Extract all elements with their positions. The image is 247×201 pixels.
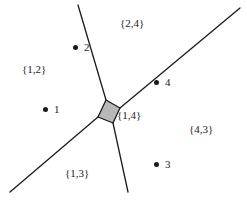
region-label-region-1-3: {1,3} (65, 168, 89, 179)
site-marker-3 (154, 162, 159, 167)
site-label-1: 1 (54, 104, 60, 115)
region-label-region-1-2: {1,2} (22, 64, 46, 75)
site-marker-4 (154, 80, 159, 85)
region-label-region-4-3: {4,3} (189, 124, 213, 135)
site-label-3: 3 (165, 159, 171, 170)
region-label-region-1-4: {1,4} (117, 110, 141, 121)
site-label-2: 2 (84, 42, 90, 53)
voronoi-diagram-figure: 1234 {1,2}{2,4}{1,4}{4,3}{1,3} (0, 0, 247, 201)
site-label-4: 4 (165, 77, 171, 88)
site-marker-2 (73, 45, 78, 50)
region-label-region-2-4: {2,4} (120, 18, 144, 29)
site-marker-1 (43, 107, 48, 112)
label-overlay-layer: 1234 {1,2}{2,4}{1,4}{4,3}{1,3} (0, 0, 247, 201)
